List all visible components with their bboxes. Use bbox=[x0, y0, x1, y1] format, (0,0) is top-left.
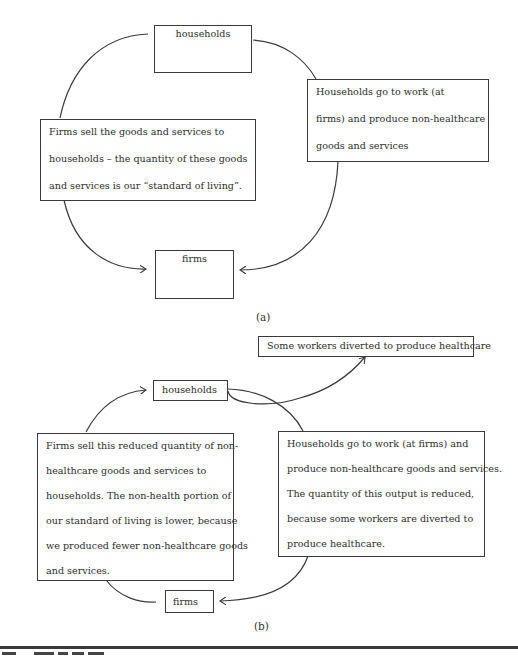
households-work-reduced-line-1: Households go to work (at firms) and bbox=[287, 431, 468, 456]
arc-households-to-right-box-a bbox=[253, 40, 316, 79]
firms-sell-line-1: Firms sell the goods and services to bbox=[49, 119, 224, 144]
diverted-workers-label: Some workers diverted to produce healthc… bbox=[267, 335, 491, 357]
firms-sell-reduced-box-b: Firms sell this reduced quantity of non-… bbox=[37, 433, 234, 581]
firms-label-b: firms bbox=[173, 590, 198, 613]
diverted-workers-box: Some workers diverted to produce healthc… bbox=[258, 336, 474, 357]
panel-label-a: (a) bbox=[256, 311, 270, 323]
households-label-a: households bbox=[155, 21, 251, 46]
firms-sell-line-3: and services is our “standard of living”… bbox=[49, 173, 242, 198]
firms-sell-reduced-line-6: and services. bbox=[46, 558, 110, 583]
firms-sell-reduced-line-1: Firms sell this reduced quantity of non- bbox=[46, 433, 238, 458]
arrow-left-box-to-firms-a bbox=[64, 200, 146, 269]
arrow-left-box-to-households-b bbox=[86, 390, 146, 432]
panel-label-b: (b) bbox=[254, 620, 269, 632]
households-work-reduced-line-5: produce healthcare. bbox=[287, 531, 385, 556]
households-work-reduced-line-4: because some workers are diverted to bbox=[287, 506, 473, 531]
firms-sell-reduced-line-3: households. The non-health portion of bbox=[46, 483, 231, 508]
firms-sell-reduced-line-5: we produced fewer non-healthcare goods bbox=[46, 533, 248, 558]
households-work-line-3: goods and services bbox=[316, 133, 409, 158]
firms-sell-box-a: Firms sell the goods and services to hou… bbox=[40, 119, 256, 201]
households-work-box-a: Households go to work (at firms) and pro… bbox=[307, 79, 489, 162]
figure-caption-clipped bbox=[0, 652, 518, 657]
households-work-reduced-line-3: The quantity of this output is reduced, bbox=[287, 481, 474, 506]
households-work-reduced-line-2: produce non-healthcare goods and service… bbox=[287, 456, 502, 481]
households-label-b: households bbox=[162, 379, 217, 401]
arc-households-to-left-box-a bbox=[60, 34, 148, 118]
households-node-a: households bbox=[154, 25, 252, 73]
arc-left-box-to-firms-b bbox=[106, 580, 156, 602]
firms-label-a: firms bbox=[156, 246, 233, 271]
households-work-line-1: Households go to work (at bbox=[316, 79, 444, 104]
firms-sell-line-2: households – the quantity of these goods bbox=[49, 146, 247, 171]
arrow-households-to-diverted-b bbox=[228, 357, 365, 404]
figure-bottom-rule bbox=[0, 646, 518, 649]
firms-sell-reduced-line-2: healthcare goods and services to bbox=[46, 458, 206, 483]
firms-node-b: firms bbox=[165, 590, 214, 613]
households-work-reduced-box-b: Households go to work (at firms) and pro… bbox=[278, 431, 485, 557]
arc-households-to-right-box-b bbox=[228, 389, 303, 431]
households-node-b: households bbox=[153, 380, 228, 401]
households-work-line-2: firms) and produce non-healthcare bbox=[316, 106, 485, 131]
firms-sell-reduced-line-4: our standard of living is lower, because bbox=[46, 508, 237, 533]
firms-node-a: firms bbox=[155, 250, 234, 299]
